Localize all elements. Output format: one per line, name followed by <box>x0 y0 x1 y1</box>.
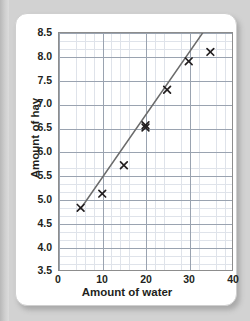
chart-card: Amount of hay 8.5 8.0 7.5 7.0 6.5 6.0 5.… <box>15 13 237 306</box>
y-tick-label-4-5: 4.5 <box>18 217 52 229</box>
x-tick-label-40: 40 <box>220 273 246 285</box>
data-point-marker <box>164 86 171 93</box>
y-tick-label-5-0: 5.0 <box>18 193 52 205</box>
y-tick-label-4-0: 4.0 <box>18 241 52 253</box>
data-point-marker <box>207 49 214 56</box>
y-tick-label-7-0: 7.0 <box>18 97 52 109</box>
data-point-marker <box>99 190 106 197</box>
x-tick-label-10: 10 <box>89 273 115 285</box>
data-point-marker <box>77 204 84 211</box>
scatter-chart: Amount of hay 8.5 8.0 7.5 7.0 6.5 6.0 5.… <box>16 14 238 307</box>
x-axis-title: Amount of water <box>16 286 238 298</box>
y-tick-label-8-5: 8.5 <box>18 26 52 38</box>
y-tick-label-5-5: 5.5 <box>18 169 52 181</box>
data-point-marker <box>185 58 192 65</box>
data-layer <box>59 33 232 269</box>
x-tick-label-20: 20 <box>133 273 159 285</box>
y-tick-label-6-5: 6.5 <box>18 121 52 133</box>
data-point-marker <box>121 162 128 169</box>
x-tick-label-0: 0 <box>45 273 71 285</box>
y-tick-label-8-0: 8.0 <box>18 50 52 62</box>
y-tick-label-7-5: 7.5 <box>18 74 52 86</box>
page-background: Amount of hay 8.5 8.0 7.5 7.0 6.5 6.0 5.… <box>0 0 250 321</box>
data-point-markers <box>77 49 213 212</box>
plot-area <box>58 32 233 271</box>
y-tick-label-6-0: 6.0 <box>18 145 52 157</box>
trend-line <box>81 33 203 209</box>
x-tick-label-30: 30 <box>176 273 202 285</box>
